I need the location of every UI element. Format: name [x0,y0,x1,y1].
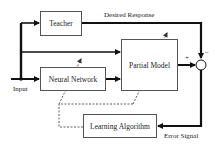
minus-sign: − [205,50,209,57]
error-signal-label: Error Signal [164,133,198,140]
block-diagram: Teacher Partial Model Neural Network Lea… [0,0,215,149]
neural-network-block: Neural Network [40,67,106,91]
plus-sign: + [185,55,189,62]
teacher-block: Teacher [40,11,82,36]
summing-junction [196,60,206,70]
partial-model-label: Partial Model [129,61,170,70]
neural-network-label: Neural Network [49,75,98,84]
partial-model-block: Partial Model [121,39,178,91]
learning-algorithm-label: Learning Algorithm [90,122,150,131]
input-label: Input [13,86,28,93]
learning-algorithm-block: Learning Algorithm [83,114,157,138]
teacher-label: Teacher [49,19,73,28]
desired-response-label: Desired Response [104,12,154,19]
